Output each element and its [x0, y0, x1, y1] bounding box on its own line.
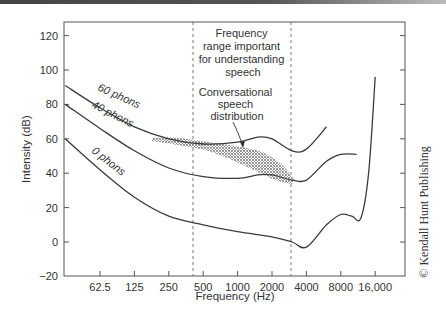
y-axis-title: Intensity (dB) — [20, 115, 32, 183]
x-tick-label: 250 — [160, 281, 178, 293]
y-tick-label: 120 — [40, 30, 58, 42]
y-tick-label: −20 — [39, 270, 58, 282]
copyright-text: © Kendall Hunt Publishing — [417, 146, 431, 277]
speech-annotation: Conversational speech distribution — [199, 86, 275, 122]
y-tick-label: 100 — [40, 64, 58, 76]
y-tick-label: 0 — [52, 236, 58, 248]
label-0-phons: 0 phons — [90, 144, 129, 178]
x-tick-label: 8000 — [329, 281, 353, 293]
y-tick-label: 60 — [46, 133, 58, 145]
x-tick-label: 16,000 — [358, 281, 392, 293]
y-tick-label: 40 — [46, 167, 58, 179]
x-tick-label: 62.5 — [89, 281, 110, 293]
y-tick-label: 80 — [46, 98, 58, 110]
x-tick-label: 125 — [125, 281, 143, 293]
equal-loudness-chart: 120100806040200−20 62.512525050010002000… — [0, 0, 446, 330]
x-axis-title: Frequency (Hz) — [195, 290, 274, 302]
band-annotation: Frequency range important for understand… — [199, 27, 288, 78]
y-tick-label: 20 — [46, 202, 58, 214]
x-tick-label: 4000 — [294, 281, 318, 293]
